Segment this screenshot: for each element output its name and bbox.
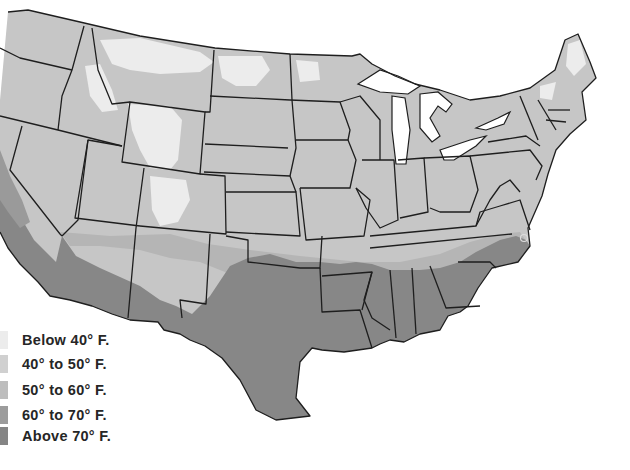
legend-swatch <box>0 406 8 424</box>
legend-swatch <box>0 427 8 445</box>
legend-label: Below 40° F. <box>22 332 110 348</box>
legend-swatch <box>0 381 8 399</box>
legend-label: Above 70° F. <box>22 428 111 444</box>
legend-label: 50° to 60° F. <box>22 382 107 398</box>
legend-label: 40° to 50° F. <box>22 356 107 372</box>
legend-item-below-40: Below 40° F. <box>0 330 110 350</box>
legend-label: 60° to 70° F. <box>22 407 107 423</box>
legend-item-60-to-70: 60° to 70° F. <box>0 405 107 425</box>
legend-swatch <box>0 355 8 373</box>
legend-item-40-to-50: 40° to 50° F. <box>0 354 107 374</box>
legend-swatch <box>0 331 8 349</box>
legend-item-above-70: Above 70° F. <box>0 426 111 446</box>
legend-item-50-to-60: 50° to 60° F. <box>0 380 107 400</box>
